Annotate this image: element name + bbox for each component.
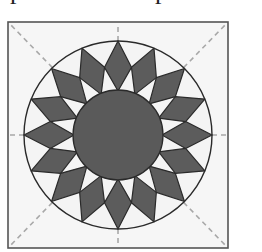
quilt-block-diagram [0,0,262,252]
center-circle [73,90,163,180]
